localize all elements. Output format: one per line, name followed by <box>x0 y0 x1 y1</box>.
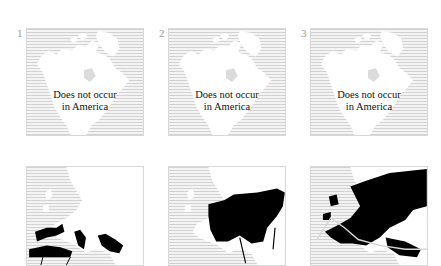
map-note-line1: Does not occur <box>169 89 285 101</box>
map-note-line2: in America <box>27 101 143 113</box>
map-north-america: Does not occur in America <box>26 28 144 136</box>
panel-number: 1 <box>17 28 23 39</box>
map-europe <box>168 166 286 266</box>
map-europe <box>26 166 144 266</box>
panel-number: 3 <box>301 28 307 39</box>
europe-distribution-map <box>27 167 143 265</box>
map-note-line2: in America <box>311 101 427 113</box>
map-europe <box>310 166 428 266</box>
map-note-line1: Does not occur <box>27 89 143 101</box>
map-north-america: Does not occur in America <box>310 28 428 136</box>
europe-distribution-map <box>169 167 285 265</box>
map-note-line1: Does not occur <box>311 89 427 101</box>
north-america-land-shape <box>311 29 427 135</box>
north-america-land-shape <box>169 29 285 135</box>
europe-distribution-map <box>311 167 427 265</box>
map-note-line2: in America <box>169 101 285 113</box>
panel-number: 2 <box>159 28 165 39</box>
north-america-land-shape <box>27 29 143 135</box>
map-north-america: Does not occur in America <box>168 28 286 136</box>
